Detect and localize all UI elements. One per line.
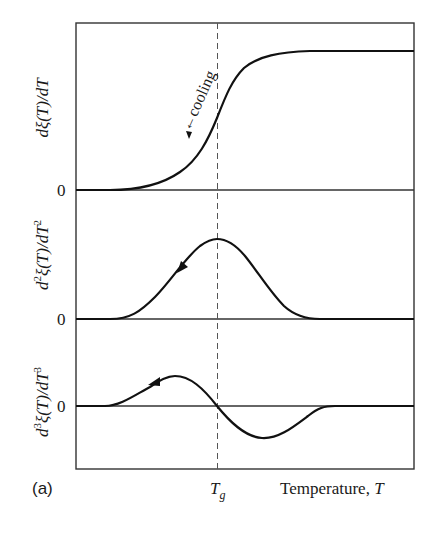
cooling-arrow-icon <box>186 131 192 139</box>
cooling-label: ←cooling <box>177 68 219 134</box>
panel1-zero-label: 0 <box>57 181 66 200</box>
cooling-annotation: ←cooling <box>177 68 219 134</box>
panel3-ylabel: d3ξ(T)/dT3 <box>31 366 52 437</box>
figure-tag: (a) <box>32 479 53 498</box>
panel2-curve <box>76 239 414 319</box>
svg-text:d3ξ(T)/dT3: d3ξ(T)/dT3 <box>31 366 52 437</box>
panel1-curve <box>76 51 414 190</box>
panel2-zero-label: 0 <box>57 310 66 329</box>
x-axis-label: Temperature, T <box>280 479 385 498</box>
plot-frame <box>76 23 414 469</box>
derivative-figure: ←cooling 0 0 0 dξ(T)/dT d2ξ(T)/dT2 d3ξ(T… <box>0 0 436 543</box>
panel3-arrow-icon <box>148 377 160 386</box>
svg-text:d2ξ(T)/dT2: d2ξ(T)/dT2 <box>31 220 52 290</box>
panel3-curve <box>76 376 414 438</box>
svg-text:dξ(T)/dT: dξ(T)/dT <box>33 77 52 138</box>
panel1-ylabel: dξ(T)/dT <box>33 77 52 138</box>
panel2-arrow-icon <box>177 261 188 273</box>
panel3-zero-label: 0 <box>57 397 66 416</box>
panel2-ylabel: d2ξ(T)/dT2 <box>31 220 52 290</box>
tg-label: Tg <box>210 479 225 502</box>
